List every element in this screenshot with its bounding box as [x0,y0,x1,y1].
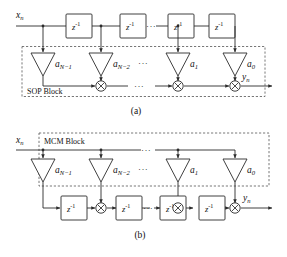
filter-diagram-svg: xn z-1 z-1 z-1 [0,0,287,257]
delay-block-a-2[interactable]: z-1 [120,14,146,38]
sop-block-label: SOP Block [27,87,63,96]
delay-line-ellipsis-a: ··· [146,21,156,31]
multiplier-a-3[interactable] [166,53,190,76]
input-label-b: xn [15,135,24,146]
panel-a: xn z-1 z-1 z-1 [15,10,272,117]
coef-label-b-1: aN−1 [55,165,72,176]
multiplier-b-1[interactable] [31,159,55,182]
multiplier-a-2[interactable] [89,53,113,76]
coef-label-b-3: a1 [190,165,198,176]
coef-label-a-4: a0 [247,59,256,70]
multiplier-b-4[interactable] [223,159,247,182]
delay-block-b-1[interactable]: z-1 [61,196,87,220]
adder-b-2[interactable] [173,203,183,213]
coef-label-a-2: aN−2 [113,59,131,70]
adder-b-3[interactable] [230,203,240,213]
delay-block-b-2[interactable]: z-1 [116,196,142,220]
adder-a-1[interactable] [96,81,106,91]
multiplier-a-1[interactable] [31,53,55,76]
junction-dot-b-1 [42,149,45,152]
mcm-block-label: MCM Block [44,137,85,146]
caption-b: (b) [134,230,145,241]
junction-dot-b-2 [100,149,103,152]
tap-ellipsis-b: ··· [138,164,148,174]
output-label-b: yn [242,193,251,204]
caption-a: (a) [131,106,142,117]
multiplier-b-2[interactable] [89,159,113,182]
multiplier-b-3[interactable] [166,159,190,182]
coef-label-a-3: a1 [190,59,198,70]
delay-block-a-1[interactable]: z-1 [66,14,92,38]
delay-block-a-3[interactable]: z-1 [168,14,194,38]
junction-dot-a-2 [100,25,103,28]
delay-block-a-4[interactable]: z-1 [209,14,235,38]
input-label-a: xn [15,10,24,21]
sum-bus-ellipsis-a: ··· [134,81,144,91]
junction-dot-a-3 [177,25,180,28]
junction-dot-b-3 [177,149,180,152]
adder-a-3[interactable] [230,81,240,91]
junction-dot-a-1 [42,25,45,28]
panel-b: xn MCM Block ··· aN−1 aN−2 a1 [15,133,272,241]
input-bus-ellipsis-b: ··· [141,145,151,155]
coef-label-b-2: aN−2 [113,165,131,176]
coef-label-b-4: a0 [247,165,256,176]
tap-ellipsis-a: ··· [138,58,148,68]
adder-b-1[interactable] [96,203,106,213]
figure-root: xn z-1 z-1 z-1 [0,0,287,257]
adder-a-2[interactable] [173,81,183,91]
output-label-a: yn [241,72,250,83]
coef-label-a-1: aN−1 [55,59,72,70]
chain-ellipsis-b: ··· [143,203,153,213]
